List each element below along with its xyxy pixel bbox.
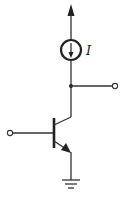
current-source — [61, 40, 81, 60]
circuit-diagram: I — [0, 0, 127, 198]
current-source-label: I — [85, 43, 92, 58]
output-terminal — [112, 83, 117, 88]
input-terminal — [7, 130, 12, 135]
collector-lead — [54, 117, 71, 125]
emitter-arrow-icon — [61, 143, 71, 153]
ground-icon — [62, 180, 80, 188]
npn-transistor — [54, 117, 71, 153]
supply-arrow-icon — [68, 4, 75, 40]
